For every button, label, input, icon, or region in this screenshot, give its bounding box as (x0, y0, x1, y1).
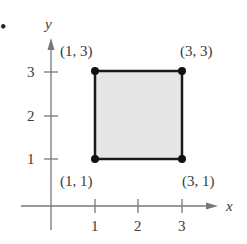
vertex-point-3-3 (178, 67, 186, 75)
y-axis-label: y (43, 16, 52, 32)
y-tick-label-2: 2 (27, 108, 35, 124)
vertex-point-1-3 (91, 67, 99, 75)
vertex-label-3-3: (3, 3) (180, 43, 213, 60)
y-tick-label-1: 1 (27, 151, 35, 167)
y-tick-label-3: 3 (27, 64, 35, 80)
shaded-square (95, 71, 182, 159)
item-bullet: • (0, 17, 6, 37)
vertex-point-1-1 (91, 155, 99, 163)
vertex-point-3-1 (178, 155, 186, 163)
coordinate-plane: • y x 3 2 1 1 2 3 (1, 3) (3, 3) (1, 1) (… (0, 0, 247, 244)
x-tick-label-1: 1 (91, 218, 99, 234)
x-axis-label: x (225, 198, 233, 214)
y-axis-arrow-icon (48, 38, 55, 50)
x-axis-arrow-icon (206, 203, 218, 210)
vertex-label-1-1: (1, 1) (60, 173, 93, 190)
x-tick-label-3: 3 (178, 218, 186, 234)
vertex-label-3-1: (3, 1) (182, 173, 215, 190)
x-tick-label-2: 2 (134, 218, 142, 234)
vertex-label-1-3: (1, 3) (60, 43, 93, 60)
y-axis (44, 38, 58, 230)
